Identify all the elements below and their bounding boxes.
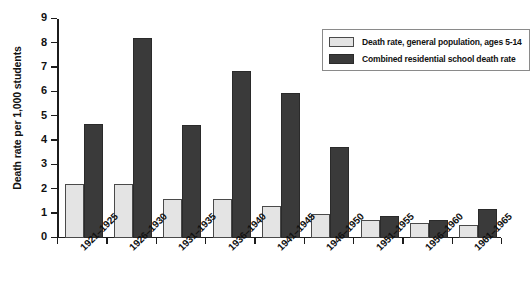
y-axis-tick-label: 9 bbox=[41, 10, 47, 24]
bar-general-population bbox=[65, 184, 84, 238]
y-axis-tick: 4 bbox=[51, 139, 57, 140]
x-axis-tick bbox=[353, 238, 354, 244]
x-axis-tick bbox=[106, 238, 107, 244]
x-axis-tick bbox=[205, 238, 206, 244]
bar-group bbox=[114, 19, 152, 238]
bar-residential-school bbox=[84, 124, 103, 238]
y-axis-tick-label: 1 bbox=[41, 205, 47, 219]
bar-general-population bbox=[114, 184, 133, 238]
bar-residential-school bbox=[281, 93, 300, 238]
bar-group bbox=[213, 19, 251, 238]
legend-item-residential-school: Combined residential school death rate bbox=[329, 52, 522, 65]
bar-residential-school bbox=[232, 71, 251, 238]
y-axis-tick: 6 bbox=[51, 91, 57, 92]
x-axis-tick bbox=[57, 238, 58, 244]
bar-group bbox=[65, 19, 103, 238]
x-axis-tick bbox=[501, 238, 502, 244]
bar-general-population bbox=[262, 206, 281, 238]
bar-residential-school bbox=[133, 38, 152, 238]
x-axis-tick bbox=[254, 238, 255, 244]
legend-swatch-light bbox=[329, 37, 354, 47]
bar-group bbox=[163, 19, 201, 238]
y-axis-tick-label: 6 bbox=[41, 83, 47, 97]
x-axis-tick bbox=[452, 238, 453, 244]
y-axis-tick-label: 5 bbox=[41, 108, 47, 122]
y-axis-tick: 7 bbox=[51, 66, 57, 67]
legend-label: Combined residential school death rate bbox=[362, 54, 515, 64]
bar-general-population bbox=[410, 223, 429, 238]
x-axis-tick bbox=[402, 238, 403, 244]
y-axis-tick-label: 2 bbox=[41, 181, 47, 195]
y-axis-tick: 5 bbox=[51, 115, 57, 116]
y-axis-tick: 2 bbox=[51, 188, 57, 189]
bar-group bbox=[262, 19, 300, 238]
x-axis-tick bbox=[156, 238, 157, 244]
legend-label: Death rate, general population, ages 5-1… bbox=[362, 37, 522, 47]
bar-general-population bbox=[459, 225, 478, 238]
y-axis-tick: 9 bbox=[51, 18, 57, 19]
y-axis-tick-label: 3 bbox=[41, 156, 47, 170]
bar-general-population bbox=[361, 220, 380, 238]
y-axis-tick: 8 bbox=[51, 42, 57, 43]
legend-item-general-population: Death rate, general population, ages 5-1… bbox=[329, 35, 522, 48]
y-axis-tick: 3 bbox=[51, 164, 57, 165]
y-axis-tick-label: 4 bbox=[41, 132, 47, 146]
x-axis-tick bbox=[304, 238, 305, 244]
y-axis-tick-label: 8 bbox=[41, 35, 47, 49]
y-axis-tick-label: 0 bbox=[41, 229, 47, 243]
legend: Death rate, general population, ages 5-1… bbox=[322, 29, 530, 71]
y-axis-title: Death rate per 1,000 students bbox=[11, 8, 23, 228]
y-axis-line bbox=[57, 19, 59, 238]
legend-swatch-dark bbox=[329, 54, 354, 64]
y-axis-tick: 1 bbox=[51, 212, 57, 213]
y-axis-tick-label: 7 bbox=[41, 59, 47, 73]
